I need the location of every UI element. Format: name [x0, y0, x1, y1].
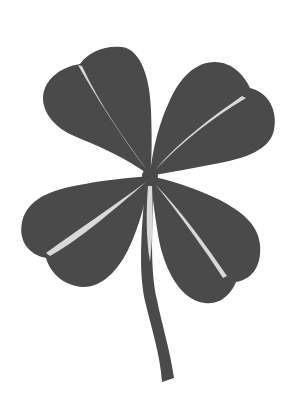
clover-illustration	[0, 0, 295, 406]
leaf-top-left	[43, 47, 152, 176]
four-leaf-clover-icon	[0, 0, 295, 406]
leaf-bottom-right	[150, 176, 260, 303]
clover-center	[142, 168, 158, 184]
